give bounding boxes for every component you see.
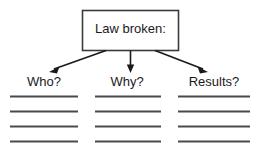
branch-label-1: Why?: [110, 74, 143, 89]
connector-arrow-middle: [127, 51, 134, 74]
diagram-canvas: Law broken: Who? Why?: [0, 0, 262, 151]
branch-column-0: Who?: [10, 74, 78, 142]
branch-label-0: Who?: [27, 74, 61, 89]
connector-arrow-left: [49, 51, 106, 74]
branch-column-2: Results?: [178, 74, 250, 142]
law-broken-box-label: Law broken:: [95, 21, 166, 36]
branch-column-1: Why?: [95, 74, 161, 142]
graphic-organizer-diagram: Law broken: Who? Why?: [0, 0, 262, 151]
branch-label-2: Results?: [189, 74, 240, 89]
connector-arrow-right: [155, 51, 208, 74]
